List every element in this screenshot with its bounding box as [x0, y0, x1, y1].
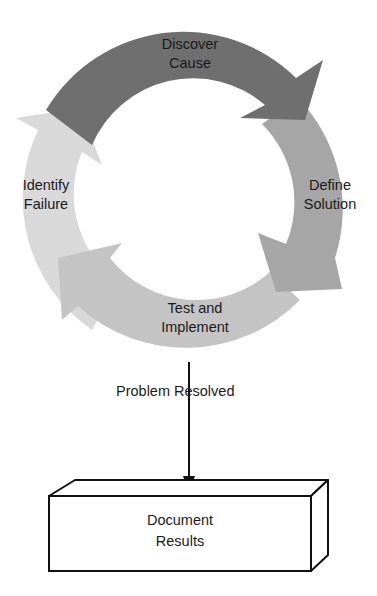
step-label-identify-failure: Identify Failure	[8, 176, 84, 214]
step-label-line: Discover	[150, 35, 230, 54]
flow-label-problem-resolved: Problem Resolved	[116, 382, 234, 400]
step-label-line: Test and	[145, 299, 245, 318]
output-label-line: Document	[49, 510, 311, 531]
step-label-line: Failure	[8, 195, 84, 214]
step-label-line: Define	[290, 176, 370, 195]
step-label-discover-cause: Discover Cause	[150, 35, 230, 73]
step-label-define-solution: Define Solution	[290, 176, 370, 214]
step-label-line: Identify	[8, 176, 84, 195]
step-label-test-implement: Test and Implement	[145, 299, 245, 337]
step-label-line: Implement	[145, 318, 245, 337]
step-label-line: Cause	[150, 54, 230, 73]
box-side-face	[311, 480, 328, 571]
step-label-line: Solution	[290, 195, 370, 214]
diagram-canvas	[0, 0, 377, 596]
output-box-label: Document Results	[49, 510, 311, 552]
box-top-face	[49, 480, 328, 496]
output-label-line: Results	[49, 531, 311, 552]
